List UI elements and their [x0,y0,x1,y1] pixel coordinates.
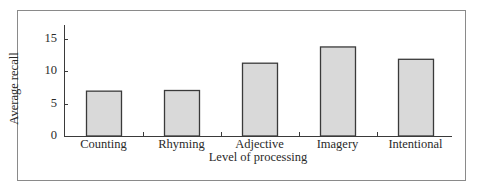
bar-rhyming [165,91,200,137]
bar-imagery [321,47,356,136]
y-axis-label: Average recall [7,34,22,144]
bar-intentional [399,59,434,136]
bar-adjective [243,63,278,136]
y-tick-label: 5 [37,96,57,111]
y-tick-label: 15 [37,31,57,46]
bar-counting [87,91,122,136]
y-tick-label: 0 [37,128,57,143]
bars-group [87,47,434,136]
y-tick-label: 10 [37,63,57,78]
x-axis-label: Level of processing [64,150,452,165]
